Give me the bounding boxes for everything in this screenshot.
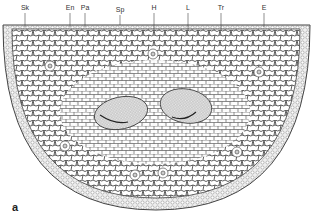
label-l: L bbox=[186, 4, 190, 11]
label-h: H bbox=[151, 4, 156, 11]
label-pa: Pa bbox=[81, 4, 90, 11]
label-sk: Sk bbox=[21, 4, 29, 11]
panel-label: a bbox=[12, 201, 18, 213]
leaf-cross-section-drawing bbox=[0, 0, 323, 216]
label-sp: Sp bbox=[116, 6, 125, 13]
label-en: En bbox=[66, 4, 75, 11]
central-parenchyma bbox=[60, 60, 250, 164]
label-e: E bbox=[262, 4, 267, 11]
label-tr: Tr bbox=[218, 4, 224, 11]
